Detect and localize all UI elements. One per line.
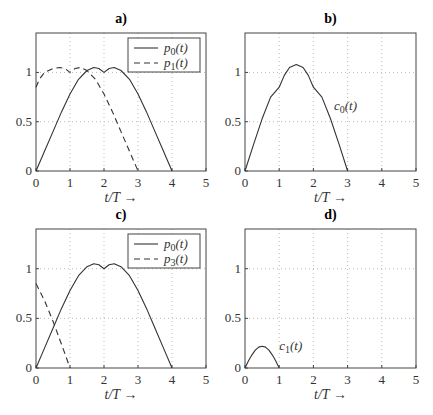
figure: a)01234500.51t/T →p0(t)p1(t)b)01234500.5… <box>0 0 433 415</box>
axes-frame <box>245 33 416 171</box>
x-tick-label: 3 <box>344 372 351 387</box>
series-c1-line <box>245 346 279 368</box>
y-tick-label: 1 <box>235 261 242 276</box>
x-tick-label: 3 <box>135 175 142 190</box>
panel-title: c) <box>116 207 127 223</box>
y-tick-label: 1 <box>26 64 33 79</box>
y-tick-label: 0 <box>235 163 242 178</box>
series-p1-line <box>36 68 138 172</box>
legend: p0(t)p3(t) <box>128 234 200 268</box>
y-tick-label: 0.5 <box>16 114 32 129</box>
x-tick-label: 1 <box>276 372 283 387</box>
x-tick-label: 4 <box>169 372 176 387</box>
panel-c: c)01234500.51t/T →p0(t)p3(t) <box>16 207 210 402</box>
x-tick-label: 5 <box>203 175 210 190</box>
panel-title: a) <box>115 11 127 27</box>
x-tick-label: 5 <box>413 372 420 387</box>
y-tick-label: 0.5 <box>16 310 32 325</box>
y-tick-label: 0.5 <box>225 114 241 129</box>
y-tick-label: 0 <box>26 360 33 375</box>
legend: p0(t)p1(t) <box>128 38 200 72</box>
x-tick-label: 1 <box>67 372 74 387</box>
y-tick-label: 0.5 <box>225 310 241 325</box>
panel-d: d)01234500.51t/T →c1(t) <box>225 207 420 402</box>
x-axis-label: t/T → <box>314 190 347 205</box>
x-tick-label: 2 <box>310 175 317 190</box>
curve-annotation: c0(t) <box>334 98 357 115</box>
x-tick-label: 0 <box>242 175 249 190</box>
y-tick-label: 1 <box>235 64 242 79</box>
panel-title: b) <box>324 11 337 27</box>
x-tick-label: 1 <box>67 175 74 190</box>
x-axis-label: t/T → <box>105 387 138 402</box>
y-tick-label: 0 <box>26 163 33 178</box>
x-tick-label: 5 <box>413 175 420 190</box>
x-tick-label: 3 <box>344 175 351 190</box>
panel-b: b)01234500.51t/T →c0(t) <box>225 11 420 205</box>
x-tick-label: 4 <box>169 175 176 190</box>
axes-frame <box>245 229 416 368</box>
panel-title: d) <box>324 207 337 223</box>
legend-label: p3(t) <box>163 251 188 268</box>
series-p0-line <box>36 68 172 172</box>
x-tick-label: 0 <box>242 372 249 387</box>
series-c0-line <box>245 65 348 172</box>
x-tick-label: 2 <box>101 372 108 387</box>
x-tick-label: 2 <box>101 175 108 190</box>
x-tick-label: 4 <box>379 175 386 190</box>
panel-a: a)01234500.51t/T →p0(t)p1(t) <box>16 11 210 205</box>
x-tick-label: 5 <box>203 372 210 387</box>
x-tick-label: 0 <box>33 175 40 190</box>
x-tick-label: 3 <box>135 372 142 387</box>
y-tick-label: 1 <box>26 261 33 276</box>
x-axis-label: t/T → <box>105 190 138 205</box>
x-tick-label: 2 <box>310 372 317 387</box>
series-p0-line <box>36 264 172 368</box>
x-tick-label: 4 <box>379 372 386 387</box>
x-axis-label: t/T → <box>314 387 347 402</box>
x-tick-label: 1 <box>276 175 283 190</box>
legend-label: p1(t) <box>163 55 188 72</box>
curve-annotation: c1(t) <box>279 338 302 355</box>
x-tick-label: 0 <box>33 372 40 387</box>
y-tick-label: 0 <box>235 360 242 375</box>
